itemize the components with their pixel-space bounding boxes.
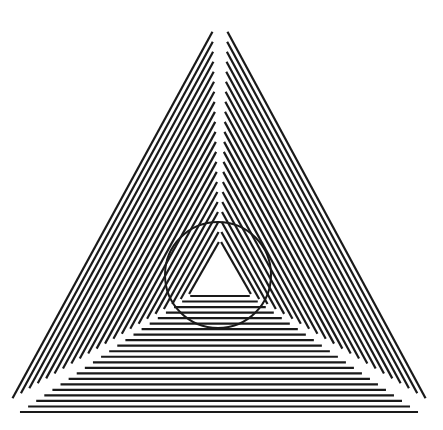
illusion-figure: Triangle line-grating illusion with circ… [0,0,443,430]
background [0,0,443,430]
triangle-illusion-canvas [0,0,443,430]
